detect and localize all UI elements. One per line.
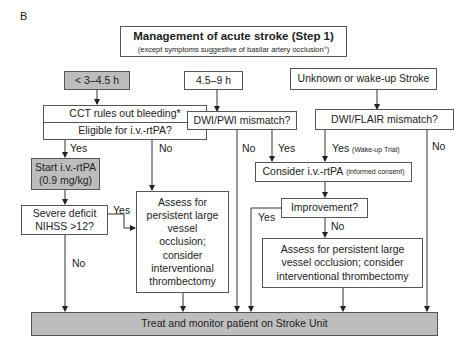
cct-box: CCT rules out bleeding* Eligible for i.v…: [43, 105, 207, 140]
edge-label-pwi-yes: Yes: [278, 142, 295, 154]
edge-label-flair-no: No: [432, 140, 445, 152]
consider-rtpa-main: Consider i.v.-rtPA: [262, 165, 343, 178]
assess-right-box: Assess for persistent large vessel occlu…: [262, 238, 423, 288]
title-main: Management of acute stroke (Step 1): [133, 29, 334, 43]
time-window-unknown: Unknown or wake-up Stroke: [290, 68, 437, 90]
severe-deficit-line2: NIHSS >12?: [35, 220, 94, 233]
title-box: Management of acute stroke (Step 1) (exc…: [120, 26, 347, 57]
edge-label-flair-yes: Yes (Wake-up Trial): [332, 142, 400, 154]
treat-bar: Treat and monitor patient on Stroke Unit: [31, 312, 438, 336]
time-window-early: < 3–4.5 h: [64, 71, 130, 90]
edge-label-severe-no: No: [72, 257, 85, 269]
start-rtpa-line1: Start i.v.-rtPA: [35, 161, 96, 174]
severe-deficit-line1: Severe deficit: [33, 207, 97, 220]
improvement-box: Improvement?: [281, 198, 368, 218]
cct-line2: Eligible for i.v.-rtPA?: [44, 123, 206, 139]
title-sub: (except symptoms suggestive of basilar a…: [138, 45, 329, 54]
edge-label-improvement-no: No: [331, 220, 344, 232]
dwi-flair-box: DWI/FLAIR mismatch?: [315, 109, 454, 130]
panel-label: B: [20, 10, 27, 22]
assess-left-box: Assess for persistent large vessel occlu…: [136, 191, 229, 293]
edge-label-severe-yes: Yes: [113, 204, 130, 216]
severe-deficit-box: Severe deficit NIHSS >12?: [21, 205, 108, 235]
time-window-mid: 4.5–9 h: [184, 71, 243, 90]
edge-label-flair-yes-note: (Wake-up Trial): [352, 146, 400, 153]
dwi-pwi-box: DWI/PWI mismatch?: [187, 111, 297, 130]
edge-label-flair-yes-text: Yes: [332, 142, 349, 154]
consider-rtpa-note: (informed consent): [346, 168, 404, 177]
edge-label-improvement-yes: Yes: [258, 211, 275, 223]
edge-label-cct-no: No: [159, 142, 172, 154]
cct-line1: CCT rules out bleeding*: [44, 106, 206, 123]
start-rtpa-box: Start i.v.-rtPA (0.9 mg/kg): [31, 158, 100, 190]
edge-label-cct-yes: Yes: [70, 142, 87, 154]
start-rtpa-line2: (0.9 mg/kg): [39, 174, 92, 187]
consider-rtpa-box: Consider i.v.-rtPA (informed consent): [255, 162, 412, 182]
edge-label-pwi-no: No: [242, 142, 255, 154]
